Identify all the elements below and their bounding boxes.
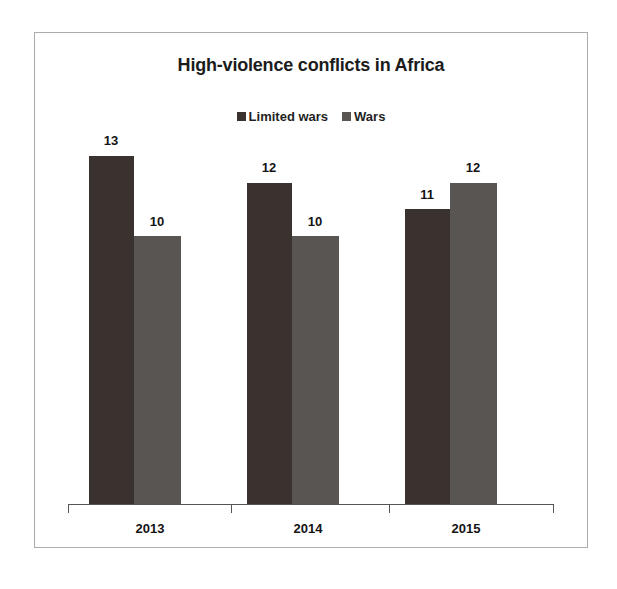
legend-label-limited-wars: Limited wars: [249, 109, 328, 124]
legend-swatch-limited-wars-icon: [237, 112, 246, 121]
x-axis-tick-2: [389, 504, 390, 513]
plot-area: 13 10 12 10 11 12 2013 2014: [53, 129, 569, 533]
bar-group-2013: 13 10: [89, 129, 247, 504]
bar-value-2014-wars: 10: [295, 214, 335, 229]
bar-value-2015-wars: 12: [453, 160, 493, 175]
bar-2013-wars[interactable]: [134, 236, 181, 504]
bars-layer: 13 10 12 10 11 12: [53, 129, 569, 504]
chart-frame: High-violence conflicts in Africa Limite…: [34, 32, 588, 548]
x-axis-line: [68, 504, 554, 505]
chart-legend: Limited wars Wars: [35, 109, 587, 124]
legend-swatch-wars-icon: [342, 112, 351, 121]
legend-item-wars[interactable]: Wars: [342, 109, 385, 124]
bar-2014-limited-wars[interactable]: [247, 183, 292, 504]
bar-group-2015: 11 12: [405, 129, 563, 504]
bar-group-2014: 12 10: [247, 129, 405, 504]
x-axis-label-2015: 2015: [406, 521, 526, 536]
bar-2014-wars[interactable]: [292, 236, 339, 504]
bar-value-2013-wars: 10: [137, 214, 177, 229]
x-axis-tick-start: [68, 504, 69, 513]
bar-value-2013-limited-wars: 13: [91, 133, 131, 148]
bar-2015-wars[interactable]: [450, 183, 497, 504]
legend-item-limited-wars[interactable]: Limited wars: [237, 109, 328, 124]
x-axis-tick-end: [553, 504, 554, 513]
bar-value-2015-limited-wars: 11: [407, 187, 447, 202]
legend-label-wars: Wars: [354, 109, 385, 124]
x-axis-tick-1: [231, 504, 232, 513]
x-axis-label-2013: 2013: [90, 521, 210, 536]
bar-value-2014-limited-wars: 12: [249, 160, 289, 175]
bar-2015-limited-wars[interactable]: [405, 209, 450, 504]
chart-title: High-violence conflicts in Africa: [35, 55, 587, 76]
x-axis-label-2014: 2014: [248, 521, 368, 536]
bar-2013-limited-wars[interactable]: [89, 156, 134, 504]
